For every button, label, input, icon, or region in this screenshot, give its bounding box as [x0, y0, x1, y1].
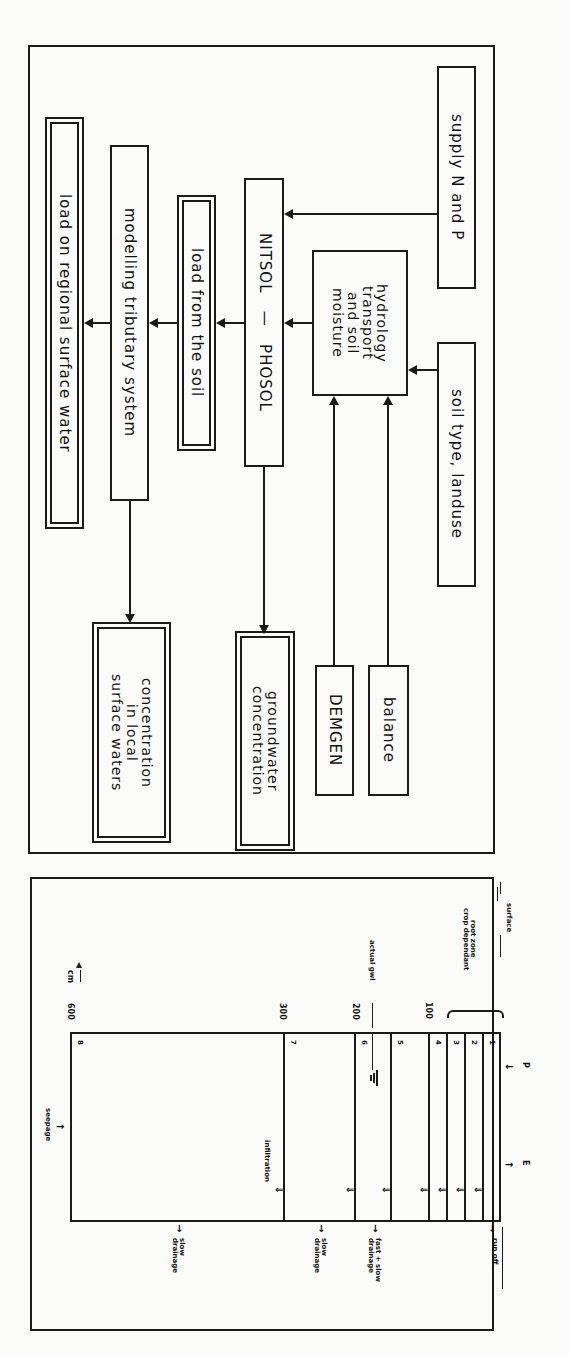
soil-type-box: soil type, landuse: [437, 342, 476, 587]
arrow-head-icon: [125, 614, 135, 623]
depth-tick-100: 100: [424, 1002, 433, 1019]
surface-dash-2: [500, 935, 501, 957]
e-label: E: [520, 1160, 529, 1165]
layer-number-7: 7: [289, 1040, 297, 1045]
p-label: P: [520, 1062, 529, 1068]
depth-direction-line: [80, 970, 81, 982]
layer-number-2: 2: [470, 1040, 478, 1045]
precipitation-arrow-icon: ←: [505, 1062, 513, 1072]
soil-type-label: soil type, landuse: [449, 389, 465, 539]
demgen-label: DEMGEN: [327, 694, 343, 766]
demgen-box: DEMGEN: [315, 665, 354, 796]
depth-tick-300: 300: [278, 1003, 287, 1020]
surface-dash: [500, 882, 501, 894]
gwl-indicator-line: [372, 1032, 373, 1070]
seepage-label: seepage: [43, 1108, 51, 1141]
groundwater-level-icon: [368, 1070, 378, 1086]
nitsol-phosol-box: NITSOL — PHOSOL: [244, 178, 284, 467]
arrow-head-icon: [284, 318, 293, 328]
soil-column-box: [70, 1032, 501, 1222]
evaporation-arrow-icon: →: [505, 1160, 513, 1170]
balance-box: balance: [368, 665, 409, 796]
balance-label: balance: [381, 697, 397, 763]
depth-tick-600: 600: [66, 1003, 75, 1020]
connector-modelling-local: [129, 501, 131, 616]
flow-arrow-icon: ⇐: [438, 1185, 446, 1195]
slow-drainage-arrow-icon: ↓: [317, 1224, 325, 1234]
fast-slow-drainage-label: fast + slow drainage: [366, 1238, 381, 1282]
layer-number-3: 3: [452, 1040, 460, 1045]
connector-soiltype-hydrology: [416, 369, 437, 371]
surface-label: surface: [504, 903, 512, 932]
load-regional-label: load on regional surface water: [57, 194, 73, 453]
root-zone-brace: [447, 1010, 504, 1018]
infiltration-label: infiltration: [262, 1140, 270, 1182]
fast-slow-drainage-arrow-icon: ↓: [371, 1224, 379, 1234]
slow-drainage-label-1: slow drainage: [312, 1238, 327, 1273]
connector-nitsol-loadsoil: [224, 322, 244, 324]
arrow-head-icon: [149, 318, 158, 328]
actual-gwl-label: actual gwl: [367, 940, 375, 981]
supply-n-p-box: supply N and P: [437, 66, 476, 289]
arrow-head-icon: [216, 318, 225, 328]
connector-hydrology-nitsol: [292, 322, 312, 324]
flow-arrow-icon: ⇐: [420, 1185, 428, 1195]
hydrology-label: hydrology transport and soil moisture: [331, 284, 390, 363]
layer-number-6: 6: [360, 1040, 368, 1045]
modelling-tributary-box: modelling tributary system: [110, 145, 149, 501]
gwl-dash: [372, 1003, 373, 1028]
load-from-soil-box: load from the soil: [182, 200, 211, 446]
groundwater-label: groundwater concentration: [250, 686, 279, 796]
connector-demgen-hydrology: [333, 405, 335, 665]
flow-arrow-icon: ⇐: [275, 1185, 283, 1195]
slow-drainage-label-2: slow drainage: [170, 1238, 185, 1273]
flow-arrow-icon: ⇐: [382, 1185, 390, 1195]
flow-arrow-icon: ⇐: [456, 1185, 464, 1195]
cm-unit-label: cm: [66, 970, 75, 983]
flow-arrow-icon: ⇐: [474, 1185, 482, 1195]
connector-nitsol-groundwater: [263, 467, 265, 627]
runoff-marker-line: [502, 1227, 503, 1289]
nitsol-label: NITSOL — PHOSOL: [256, 233, 272, 412]
slow-drainage-arrow-icon: ↓: [175, 1224, 183, 1234]
load-regional-box: load on regional surface water: [50, 122, 79, 524]
supply-label: supply N and P: [449, 114, 465, 240]
load-soil-label: load from the soil: [189, 248, 205, 397]
layer-number-8: 8: [76, 1040, 84, 1045]
local-waters-box: concentration in local surface waters: [97, 627, 166, 838]
layer-number-5: 5: [396, 1040, 404, 1045]
layer-number-1: 1: [488, 1040, 496, 1045]
flow-arrow-icon: ⇐: [346, 1185, 354, 1195]
connector-supply-nitsol: [292, 213, 437, 215]
connector-balance-hydrology: [387, 405, 389, 665]
depth-direction-arrow-icon: [76, 962, 82, 968]
layer-number-4: 4: [434, 1040, 442, 1045]
runoff-arrow-icon: ↓: [488, 1224, 496, 1234]
seepage-arrow-icon: →: [56, 1122, 64, 1132]
surface-marker: [497, 887, 498, 901]
arrow-head-icon: [408, 365, 417, 375]
arrow-head-icon: [259, 625, 269, 634]
local-waters-label: concentration in local surface waters: [109, 674, 153, 791]
arrow-head-icon: [329, 396, 339, 405]
connector-modelling-regional: [91, 322, 110, 324]
hydrology-box: hydrology transport and soil moisture: [312, 250, 408, 396]
root-zone-label: root zone crop dependant: [461, 908, 476, 970]
arrow-head-icon: [284, 209, 293, 219]
groundwater-box: groundwater concentration: [240, 636, 290, 846]
arrow-head-icon: [84, 318, 93, 328]
connector-loadsoil-modelling: [157, 322, 177, 324]
modelling-label: modelling tributary system: [122, 208, 138, 437]
runoff-label: run off: [490, 1238, 498, 1264]
arrow-head-icon: [383, 396, 393, 405]
depth-tick-200: 200: [351, 1003, 360, 1020]
